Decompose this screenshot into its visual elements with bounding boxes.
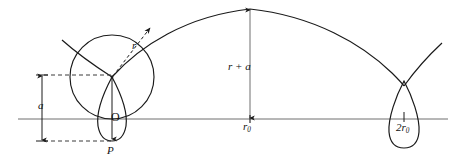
trochoid-left-branch — [62, 40, 112, 77]
radius-label-r: r — [132, 40, 136, 51]
dimension-label-a: a — [38, 100, 44, 111]
dimension-label-r-plus-a: r + a — [228, 61, 251, 72]
loop-label-2r0-sub: 0 — [406, 127, 410, 135]
loop-label-2r0-base: 2r — [396, 121, 406, 133]
point-p-label: P — [107, 145, 114, 156]
origin-label: O — [111, 111, 120, 123]
trochoid-arch — [112, 9, 404, 86]
axis-label-r0: r0 — [243, 121, 251, 134]
figure-canvas — [0, 0, 458, 159]
trochoid-figure: a r O P r + a r0 2r0 — [0, 0, 458, 159]
axis-label-r0-sub: 0 — [247, 126, 251, 134]
loop-label-2r0: 2r0 — [396, 122, 409, 135]
trochoid-right-branch — [404, 43, 442, 86]
point-generating — [111, 76, 114, 79]
